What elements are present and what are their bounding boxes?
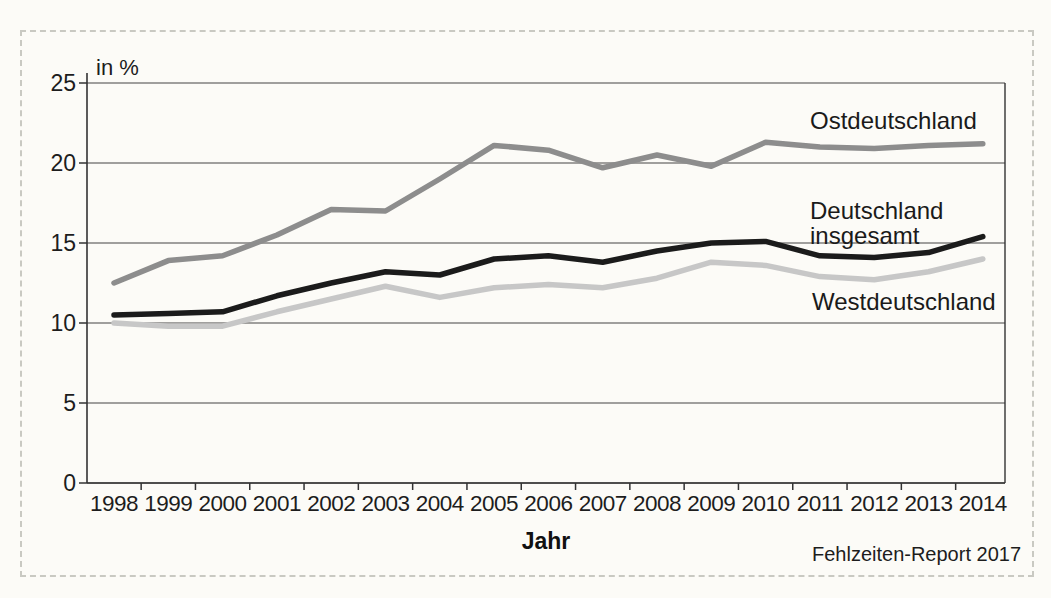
y-tick-label-15: 15 bbox=[50, 230, 76, 256]
x-tick-label-2009: 2009 bbox=[687, 491, 735, 516]
x-tick-label-2010: 2010 bbox=[742, 491, 790, 516]
x-tick-label-2011: 2011 bbox=[797, 491, 843, 516]
y-axis-unit-label: in % bbox=[96, 55, 139, 81]
x-tick-label-2001: 2001 bbox=[253, 491, 301, 516]
y-tick-label-0: 0 bbox=[63, 470, 76, 496]
x-tick-label-2008: 2008 bbox=[633, 491, 681, 516]
x-tick-label-2012: 2012 bbox=[850, 491, 898, 516]
figure: 0510152025199819992000200120022003200420… bbox=[0, 0, 1051, 598]
x-tick-label-2004: 2004 bbox=[416, 491, 464, 516]
y-tick-label-5: 5 bbox=[63, 390, 76, 416]
x-tick-label-2002: 2002 bbox=[307, 491, 355, 516]
x-tick-label-2007: 2007 bbox=[579, 491, 627, 516]
y-tick-label-10: 10 bbox=[50, 310, 76, 336]
x-tick-label-1999: 1999 bbox=[144, 491, 192, 516]
y-tick-label-25: 25 bbox=[50, 70, 76, 96]
x-tick-label-2003: 2003 bbox=[361, 491, 409, 516]
x-tick-label-2005: 2005 bbox=[470, 491, 518, 516]
x-tick-label-2014: 2014 bbox=[959, 491, 1007, 516]
x-tick-label-2006: 2006 bbox=[524, 491, 572, 516]
y-tick-label-20: 20 bbox=[50, 150, 76, 176]
series-label-westdeutschland: Westdeutschland bbox=[812, 289, 996, 314]
x-tick-label-2000: 2000 bbox=[199, 491, 247, 516]
x-tick-label-2013: 2013 bbox=[904, 491, 952, 516]
source-note: Fehlzeiten-Report 2017 bbox=[812, 543, 1021, 566]
series-label-ostdeutschland: Ostdeutschland bbox=[810, 108, 977, 133]
x-axis-title: Jahr bbox=[446, 528, 646, 555]
x-tick-label-1998: 1998 bbox=[90, 491, 138, 516]
series-label-deutschland-insgesamt: Deutschland insgesamt bbox=[810, 198, 980, 248]
